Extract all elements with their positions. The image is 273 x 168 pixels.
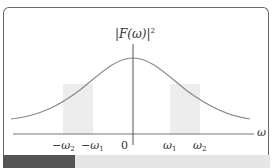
tick-sign: − (52, 139, 61, 152)
tick-symbol: 0 (121, 139, 128, 152)
tick-symbol: ω (163, 139, 172, 152)
y-axis-label: |F(ω)|2 (115, 25, 155, 40)
tick-label-neg-omega2: −ω2 (52, 140, 75, 155)
tick-sign: − (81, 139, 90, 152)
y-axis-label-exponent: 2 (151, 27, 155, 35)
bottom-bar (3, 155, 270, 168)
tick-label-omega1: ω1 (163, 140, 176, 155)
tick-label-zero: 0 (121, 140, 128, 152)
tick-subscript: 2 (70, 145, 74, 153)
bottom-bar-dark-segment (3, 155, 75, 168)
y-axis-label-base: |F(ω)| (115, 27, 151, 41)
tick-symbol: ω (61, 139, 70, 152)
x-axis-label: ω (257, 127, 266, 139)
tick-symbol: ω (193, 139, 202, 152)
shaded-band-positive (170, 84, 200, 134)
tick-label-neg-omega1: −ω1 (81, 140, 104, 155)
tick-subscript: 2 (202, 145, 206, 153)
tick-subscript: 1 (99, 145, 103, 153)
tick-subscript: 1 (172, 145, 176, 153)
spectrum-curve (11, 58, 250, 119)
tick-label-omega2: ω2 (193, 140, 206, 155)
tick-symbol: ω (90, 139, 99, 152)
